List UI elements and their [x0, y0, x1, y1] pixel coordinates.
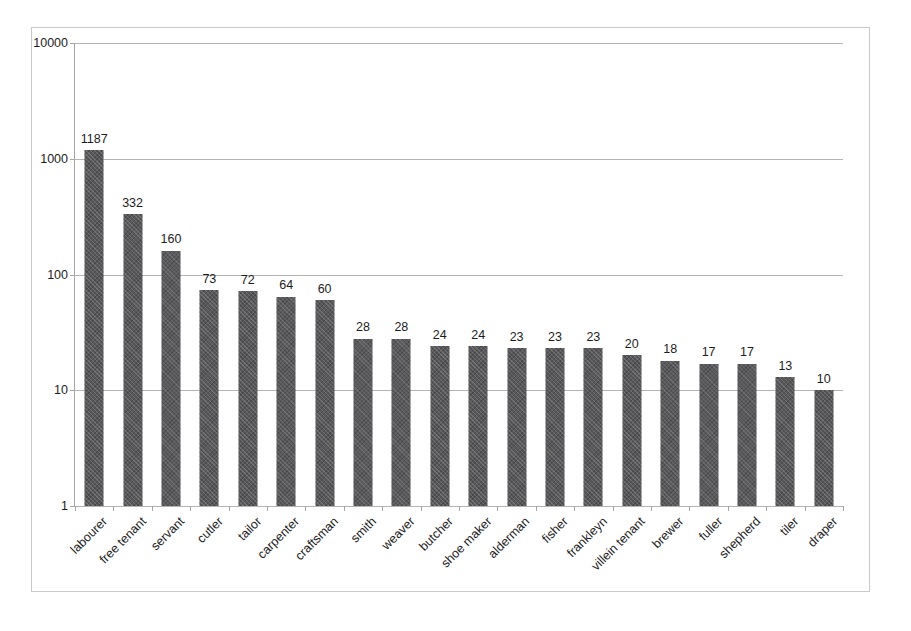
bar-value-label: 28	[394, 321, 408, 334]
x-axis-tick-mark	[574, 506, 575, 511]
bar[interactable]	[622, 355, 641, 506]
x-axis-tick-mark	[651, 506, 652, 511]
bar-slot: 17	[728, 43, 766, 506]
bar-slot: 20	[613, 43, 651, 506]
bar-value-label: 73	[202, 273, 216, 286]
bar-value-label: 332	[122, 197, 143, 210]
bar[interactable]	[353, 339, 372, 507]
bar-slot: 1187	[75, 43, 113, 506]
bar-slot: 17	[689, 43, 727, 506]
bar-value-label: 13	[778, 360, 792, 373]
x-axis-tick-mark	[766, 506, 767, 511]
x-axis-tick-mark	[459, 506, 460, 511]
x-axis-tick-mark	[805, 506, 806, 511]
bar-slot: 23	[497, 43, 535, 506]
y-axis-tick-label: 1000	[40, 153, 68, 166]
x-axis-tick-mark	[229, 506, 230, 511]
x-axis-tick-mark	[536, 506, 537, 511]
bar-slot: 24	[459, 43, 497, 506]
bar[interactable]	[699, 364, 718, 506]
bar-value-label: 160	[161, 233, 182, 246]
bar-value-label: 23	[548, 331, 562, 344]
bar-value-label: 17	[740, 346, 754, 359]
bar-value-label: 23	[586, 331, 600, 344]
bar-slot: 23	[574, 43, 612, 506]
x-axis-tick-mark	[421, 506, 422, 511]
bar[interactable]	[161, 251, 180, 506]
bar[interactable]	[584, 348, 603, 506]
bar[interactable]	[85, 150, 104, 506]
bar-value-label: 72	[241, 274, 255, 287]
bar-slot: 28	[382, 43, 420, 506]
bar[interactable]	[661, 361, 680, 506]
bar-slot: 60	[305, 43, 343, 506]
bar-slot: 24	[421, 43, 459, 506]
bar-value-label: 10	[817, 373, 831, 386]
bar-value-label: 23	[510, 331, 524, 344]
bar-slot: 23	[536, 43, 574, 506]
bar[interactable]	[315, 300, 334, 506]
x-axis-tick-mark	[344, 506, 345, 511]
bar-value-label: 28	[356, 321, 370, 334]
bar-value-label: 24	[433, 329, 447, 342]
bar[interactable]	[392, 339, 411, 507]
bar-value-label: 18	[663, 343, 677, 356]
bar[interactable]	[469, 346, 488, 506]
x-axis-tick-mark	[152, 506, 153, 511]
x-axis-tick-mark	[382, 506, 383, 511]
x-axis-tick-mark	[305, 506, 306, 511]
bar[interactable]	[776, 377, 795, 506]
bar[interactable]	[507, 348, 526, 506]
bar-slot: 13	[766, 43, 804, 506]
y-axis-tick-label: 10000	[33, 37, 68, 50]
bar-value-label: 20	[625, 338, 639, 351]
bar[interactable]	[545, 348, 564, 506]
bar[interactable]	[238, 291, 257, 506]
bar[interactable]	[277, 297, 296, 506]
bar[interactable]	[737, 364, 756, 506]
bar-slot: 64	[267, 43, 305, 506]
bar-slot: 10	[805, 43, 843, 506]
bar-value-label: 1187	[81, 133, 108, 146]
x-axis-tick-mark	[267, 506, 268, 511]
y-axis-tick-label: 1	[61, 500, 68, 513]
bar-slot: 72	[229, 43, 267, 506]
y-axis-tick-label: 10	[54, 384, 68, 397]
x-axis-tick-mark	[613, 506, 614, 511]
x-axis-tick-mark	[113, 506, 114, 511]
bar-slot: 332	[113, 43, 151, 506]
bar[interactable]	[430, 346, 449, 506]
bar-slot: 160	[152, 43, 190, 506]
x-axis-tick-mark	[728, 506, 729, 511]
bar-value-label: 60	[318, 283, 332, 296]
bar-value-label: 17	[702, 346, 716, 359]
bar[interactable]	[123, 214, 142, 506]
bar-slot: 18	[651, 43, 689, 506]
bar-value-label: 24	[471, 329, 485, 342]
bar-slot: 73	[190, 43, 228, 506]
bar[interactable]	[814, 390, 833, 506]
bar[interactable]	[200, 290, 219, 506]
x-axis-tick-mark	[75, 506, 76, 511]
bar-value-label: 64	[279, 279, 293, 292]
bar-series: 1187332160737264602828242423232320181717…	[75, 43, 843, 506]
x-axis-tick-mark	[689, 506, 690, 511]
chart-plot-area: 110100100010000 118733216073726460282824…	[74, 43, 843, 507]
x-axis-tick-mark	[190, 506, 191, 511]
x-axis-tick-mark	[843, 506, 844, 511]
x-axis-tick-mark	[497, 506, 498, 511]
bar-slot: 28	[344, 43, 382, 506]
y-axis-tick-label: 100	[47, 268, 68, 281]
